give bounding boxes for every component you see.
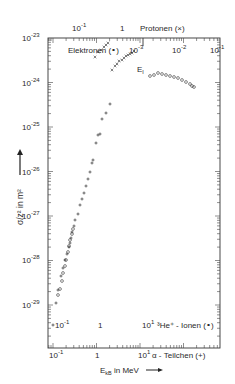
- data-point: [161, 73, 164, 76]
- data-point: [109, 103, 112, 106]
- data-point: [165, 74, 168, 77]
- data-point: [95, 142, 98, 145]
- data-point: [91, 162, 94, 165]
- data-point: [185, 81, 188, 84]
- y-tick-label: 10-29: [22, 299, 40, 310]
- data-point: [64, 265, 67, 268]
- electron-tick-label: 10-1: [210, 44, 225, 55]
- data-point: [89, 171, 92, 174]
- alpha-tick-label: 101: [138, 349, 151, 360]
- he-axis-label: ³He⁺ - Ionen (∘): [157, 321, 214, 330]
- data-point: [85, 185, 88, 188]
- data-point: [169, 75, 172, 78]
- data-point: [79, 204, 82, 207]
- plot-frame: [48, 38, 220, 348]
- electron-tick-label: 10-2: [172, 44, 187, 55]
- proton-tick-label: 1: [120, 24, 125, 33]
- data-point: [55, 302, 58, 305]
- data-point: [60, 275, 63, 278]
- y-axis-title: σ/z² in m²: [15, 149, 25, 225]
- data-point: [157, 72, 160, 75]
- x-axis-label: EkB in MeV: [100, 366, 140, 376]
- y-axis: 10-23 10-24 10-25 10-26 10-27 10-28 10-2…: [22, 32, 40, 310]
- y-tick-label: 10-24: [22, 77, 40, 88]
- data-point: [62, 272, 65, 275]
- y-axis-label: σ/z² in m²: [15, 189, 25, 225]
- y-tick-label: 10-25: [22, 121, 40, 132]
- data-point: [57, 294, 60, 297]
- data-point: [101, 118, 104, 121]
- data-point: [149, 75, 152, 78]
- data-point: [94, 56, 97, 59]
- proton-tick-label: 10-1: [72, 22, 87, 33]
- data-point: [107, 42, 110, 45]
- data-point: [87, 178, 90, 181]
- electrons-axis-label: Elektronen (∘): [68, 46, 119, 55]
- arrow-head-icon: [17, 149, 23, 155]
- data-point: [105, 112, 108, 115]
- data-point: [118, 60, 121, 63]
- data-point: [69, 242, 72, 245]
- y-ticks: [48, 40, 220, 336]
- alpha-tick-label: 10-1: [49, 349, 64, 360]
- data-point: [92, 159, 95, 162]
- ei-annotation: EI: [137, 65, 144, 75]
- data-point: [66, 253, 69, 256]
- data-point: [173, 76, 176, 79]
- cross-section-chart: 10-23 10-24 10-25 10-26 10-27 10-28 10-2…: [0, 0, 235, 384]
- data-point: [116, 63, 119, 66]
- data-point: [81, 198, 84, 201]
- data-point: [177, 77, 180, 80]
- y-tick-label: 10-26: [22, 166, 40, 177]
- y-tick-label: 10-28: [22, 254, 40, 265]
- data-point: [83, 192, 86, 195]
- alpha-axis-label: α - Teilchen (+): [152, 351, 206, 360]
- data-point: [72, 228, 75, 231]
- arrow-head-icon: [158, 368, 163, 372]
- data-point: [73, 225, 76, 228]
- data-point: [70, 237, 73, 240]
- data-point: [64, 259, 67, 262]
- data-points: [52, 42, 196, 327]
- alpha-tick-label: 1: [95, 351, 100, 360]
- data-point: [61, 280, 64, 283]
- he-tick-label: 10-1: [55, 319, 70, 330]
- data-point: [153, 74, 156, 77]
- y-tick-label: 10-23: [22, 32, 40, 43]
- he-tick-label: 101: [142, 319, 155, 330]
- data-point: [74, 219, 77, 222]
- data-point: [77, 213, 80, 216]
- data-point: [111, 69, 114, 72]
- data-point: [57, 289, 60, 292]
- protons-axis-label: Protonen (×): [140, 24, 185, 33]
- data-point: [68, 246, 71, 249]
- data-point: [181, 79, 184, 82]
- he-tick-label: 1: [98, 321, 103, 330]
